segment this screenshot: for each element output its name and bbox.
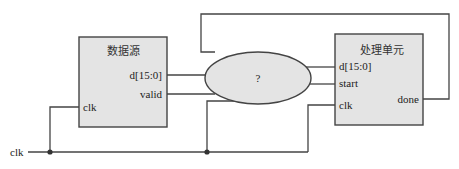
junction-dot [47, 149, 52, 154]
clk-to-unknown-wire [207, 101, 245, 152]
clk-to-source-wire [50, 107, 79, 152]
unknown-block-label: ? [256, 72, 261, 84]
processor-start-port-label: start [339, 77, 358, 89]
source-valid-port-label: valid [140, 88, 162, 100]
processing-block: 处理单元 d[15:0] start clk done [335, 34, 423, 125]
processor-done-port-label: done [398, 93, 420, 105]
clk-to-processor-wire [308, 105, 335, 152]
source-block: 数据源 d[15:0] valid clk [79, 37, 167, 127]
source-block-title: 数据源 [107, 44, 140, 58]
source-data-port-label: d[15:0] [130, 69, 162, 81]
unknown-block: ? [205, 52, 311, 104]
processing-block-title: 处理单元 [360, 44, 404, 57]
processor-data-port-label: d[15:0] [339, 60, 371, 72]
junction-dot [204, 149, 209, 154]
source-clk-port-label: clk [83, 101, 97, 113]
block-diagram: 数据源 d[15:0] valid clk ? 处理单元 d[15:0] sta… [0, 0, 459, 169]
processor-clk-port-label: clk [339, 99, 353, 111]
clk-input-label: clk [10, 146, 24, 158]
